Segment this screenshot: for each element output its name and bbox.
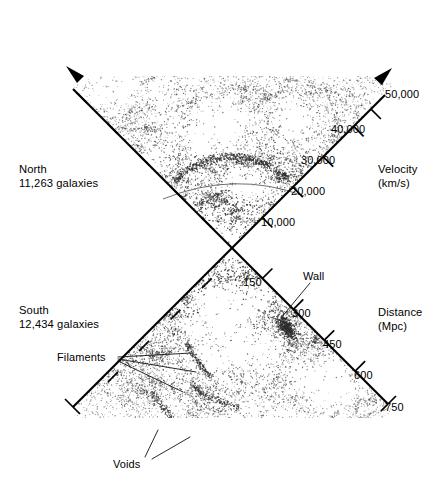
voids-leader-lines bbox=[145, 430, 190, 459]
south-region-label: South bbox=[19, 303, 99, 317]
distance-tick-label-600: 600 bbox=[354, 369, 373, 383]
distance-axis-title-line2: (Mpc) bbox=[378, 319, 422, 333]
north-region-label-block: North 11,263 galaxies bbox=[19, 162, 98, 190]
distance-axis-title-block: Distance (Mpc) bbox=[378, 305, 422, 333]
filaments-annotation-label: Filaments bbox=[57, 351, 106, 365]
wall-annotation-label: Wall bbox=[303, 270, 324, 284]
velocity-axis-title-block: Velocity (km/s) bbox=[378, 162, 417, 190]
distance-tick-label-300: 300 bbox=[292, 307, 311, 321]
velocity-tick-label-30000: 30,000 bbox=[301, 154, 335, 168]
north-region-label: North bbox=[19, 162, 98, 176]
voids-annotation-label: Voids bbox=[113, 458, 140, 472]
velocity-tick-label-20000: 20,000 bbox=[291, 185, 325, 199]
south-galaxy-scatter bbox=[73, 257, 391, 477]
distance-tick-label-150: 150 bbox=[243, 276, 262, 290]
north-right-arrow-icon bbox=[374, 68, 392, 85]
south-galaxy-count-label: 12,434 galaxies bbox=[19, 317, 99, 331]
north-galaxy-count-label: 11,263 galaxies bbox=[19, 176, 98, 190]
velocity-axis-title-line2: (km/s) bbox=[378, 176, 417, 190]
velocity-tick-label-50000: 50,000 bbox=[385, 88, 419, 102]
velocity-tick-label-40000: 40,000 bbox=[331, 123, 365, 137]
distance-tick-label-450: 450 bbox=[323, 338, 342, 352]
velocity-axis-title-line1: Velocity bbox=[378, 162, 417, 176]
velocity-tick-label-10000: 10,000 bbox=[261, 216, 295, 230]
distance-axis-title-line1: Distance bbox=[378, 305, 422, 319]
north-left-arrow-icon bbox=[66, 66, 84, 83]
cone-diagram-canvas bbox=[0, 0, 438, 491]
south-region-label-block: South 12,434 galaxies bbox=[19, 303, 99, 331]
distance-tick-label-750: 750 bbox=[385, 401, 404, 415]
cone-diagram-figure: North 11,263 galaxies South 12,434 galax… bbox=[0, 0, 438, 491]
